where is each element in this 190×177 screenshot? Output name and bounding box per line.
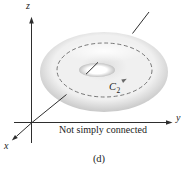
curve-c2-label-base: C: [109, 81, 116, 92]
torus-top-highlight: [62, 40, 146, 62]
curve-c2-label-subscript: 2: [117, 86, 121, 95]
figure-drawing: [0, 0, 190, 177]
piercing-line-top-segment: [133, 12, 150, 34]
torus-figure: z y x C2 Not simply connected (d): [0, 0, 190, 177]
curve-c2-label: C2: [109, 81, 120, 93]
x-axis-line: [17, 123, 33, 137]
y-axis-label: y: [176, 113, 180, 123]
x-axis-label: x: [4, 141, 8, 151]
y-axis-arrowhead: [166, 120, 173, 125]
piercing-line-front-segment: [32, 95, 67, 123]
panel-label: (d): [93, 153, 105, 165]
z-axis-arrowhead: [29, 17, 34, 24]
z-axis-label: z: [26, 1, 30, 11]
figure-caption: Not simply connected: [59, 124, 147, 136]
torus-hole: [79, 63, 115, 77]
